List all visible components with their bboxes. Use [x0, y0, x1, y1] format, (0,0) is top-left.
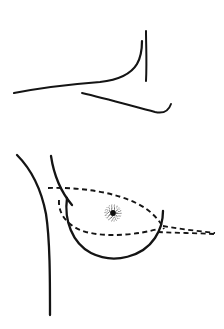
nipple — [110, 210, 116, 216]
illustration-canvas — [0, 0, 224, 329]
medical-illustration-figure — [0, 0, 224, 329]
canvas-background — [0, 0, 224, 329]
